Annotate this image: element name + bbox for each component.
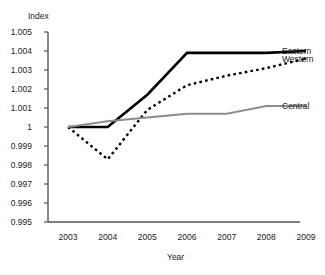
line-chart: Index Year 1.0051.0041.0031.0021.00110.9… [0, 0, 325, 275]
series-line-central [68, 106, 306, 127]
series-lines [68, 51, 306, 159]
legend-label-central: Central [282, 101, 309, 111]
plot-area [0, 0, 325, 275]
series-line-eastern [68, 51, 306, 127]
legend-label-western: Western [282, 54, 314, 64]
series-line-western [68, 59, 306, 160]
